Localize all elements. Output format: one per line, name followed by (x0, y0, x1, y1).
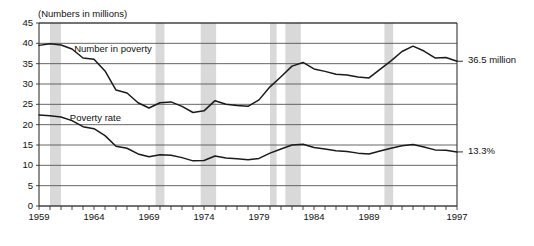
series-label-poverty-rate: Poverty rate (70, 112, 121, 123)
y-axis-tick-label: 0 (11, 201, 33, 211)
recession-band (270, 23, 277, 206)
x-axis-tick-label: 1997 (443, 212, 471, 222)
recession-band (156, 23, 165, 206)
series-line-number-in-poverty (39, 44, 457, 113)
y-axis-tick-label: 40 (11, 38, 33, 48)
series-label-number-in-poverty: Number in poverty (74, 43, 152, 54)
y-axis-tick-label: 20 (11, 120, 33, 130)
x-axis-tick-label: 1959 (25, 212, 53, 222)
recession-band (50, 23, 61, 206)
x-axis-tick-label: 1984 (300, 212, 328, 222)
x-axis-tick-label: 1969 (135, 212, 163, 222)
end-annotation-number-in-poverty: 36.5 million (468, 55, 516, 65)
y-axis-tick-label: 15 (11, 140, 33, 150)
recession-band (285, 23, 300, 206)
recession-band (201, 23, 216, 206)
recession-band (384, 23, 393, 206)
end-annotation-poverty-rate: 13.3% (468, 146, 495, 156)
y-axis-tick-label: 35 (11, 59, 33, 69)
y-axis-tick-label: 45 (11, 18, 33, 28)
x-axis-tick-label: 1979 (245, 212, 273, 222)
y-axis-tick-label: 25 (11, 99, 33, 109)
x-axis-tick-label: 1974 (190, 212, 218, 222)
y-axis-tick-label: 5 (11, 181, 33, 191)
poverty-chart: (Numbers in millions) 454035302520151050… (0, 0, 534, 246)
y-axis-tick-label: 30 (11, 79, 33, 89)
x-axis-tick-label: 1989 (355, 212, 383, 222)
x-axis-tick-label: 1964 (80, 212, 108, 222)
y-axis-tick-label: 10 (11, 160, 33, 170)
